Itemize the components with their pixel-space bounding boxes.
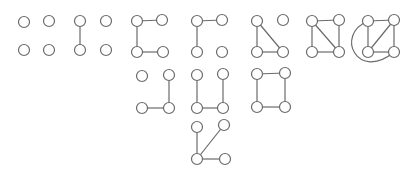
vertex bbox=[192, 70, 203, 81]
vertex bbox=[252, 47, 263, 58]
graphs-figure bbox=[0, 0, 417, 185]
vertex bbox=[307, 16, 318, 27]
vertex bbox=[19, 45, 30, 56]
vertex bbox=[217, 47, 228, 58]
vertex bbox=[278, 47, 289, 58]
vertex bbox=[307, 47, 318, 58]
g-complete-k4 bbox=[352, 15, 400, 62]
g-path-u bbox=[192, 69, 229, 114]
vertex bbox=[132, 16, 143, 27]
vertex bbox=[192, 16, 203, 27]
vertex bbox=[220, 154, 231, 165]
vertex bbox=[218, 103, 229, 114]
g-path-l bbox=[137, 70, 175, 114]
vertex bbox=[137, 71, 148, 82]
edge bbox=[312, 21, 339, 52]
g-path-gamma bbox=[192, 15, 228, 58]
vertex bbox=[278, 15, 289, 26]
vertex bbox=[19, 17, 30, 28]
vertex bbox=[334, 15, 345, 26]
vertex bbox=[192, 47, 203, 58]
g-square-diagonal bbox=[307, 15, 345, 58]
vertex bbox=[219, 120, 230, 131]
vertex bbox=[252, 102, 263, 113]
vertex bbox=[158, 47, 169, 58]
vertex bbox=[157, 15, 168, 26]
vertex bbox=[75, 45, 86, 56]
vertex bbox=[164, 103, 175, 114]
vertex bbox=[44, 16, 55, 27]
vertex bbox=[101, 45, 112, 56]
vertex bbox=[334, 47, 345, 58]
vertex bbox=[252, 69, 263, 80]
vertex bbox=[363, 47, 374, 58]
vertex bbox=[75, 16, 86, 27]
vertex bbox=[252, 16, 263, 27]
vertex bbox=[217, 15, 228, 26]
g-cycle-c4 bbox=[252, 68, 291, 113]
graph-diagram bbox=[0, 0, 417, 185]
vertex bbox=[192, 122, 203, 133]
g-empty bbox=[19, 16, 55, 56]
vertex bbox=[280, 68, 291, 79]
vertex bbox=[218, 69, 229, 80]
g-one-edge bbox=[75, 16, 112, 56]
vertex bbox=[363, 16, 374, 27]
vertex bbox=[389, 15, 400, 26]
g-star bbox=[192, 120, 231, 165]
vertex bbox=[280, 102, 291, 113]
vertex bbox=[137, 103, 148, 114]
g-triangle-isolated bbox=[252, 15, 289, 58]
vertex bbox=[389, 47, 400, 58]
vertex bbox=[192, 103, 203, 114]
g-path-c bbox=[132, 15, 169, 58]
vertex bbox=[101, 16, 112, 27]
vertex bbox=[164, 70, 175, 81]
vertex bbox=[192, 154, 203, 165]
vertex bbox=[44, 45, 55, 56]
vertex bbox=[132, 47, 143, 58]
